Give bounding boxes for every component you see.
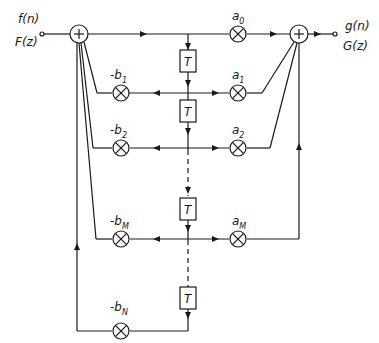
signal-flow-graph: T T T T f(n) F(z) g(n) G(z) a0 a1 a2 aM … — [0, 0, 379, 343]
output-terminal — [333, 32, 337, 36]
filter-diagram: T T T T f(n) F(z) g(n) G(z) a0 a1 a2 aM … — [0, 0, 379, 343]
svg-text:G(z): G(z) — [343, 39, 368, 53]
svg-text:-bN: -bN — [110, 300, 128, 317]
input-adder — [70, 25, 88, 43]
output-adder — [290, 25, 308, 43]
svg-text:g(n): g(n) — [345, 19, 370, 33]
multiplier-a0 — [230, 26, 246, 42]
svg-text:-bM: -bM — [110, 214, 129, 231]
svg-text:-b1: -b1 — [110, 68, 127, 85]
svg-text:F(z): F(z) — [15, 35, 38, 49]
svg-text:f(n): f(n) — [18, 12, 39, 26]
svg-text:a2: a2 — [232, 123, 244, 140]
svg-text:aM: aM — [232, 214, 246, 231]
svg-text:-b2: -b2 — [110, 123, 127, 140]
input-terminal — [40, 32, 44, 36]
svg-text:a1: a1 — [232, 68, 244, 85]
svg-text:a0: a0 — [232, 9, 244, 26]
